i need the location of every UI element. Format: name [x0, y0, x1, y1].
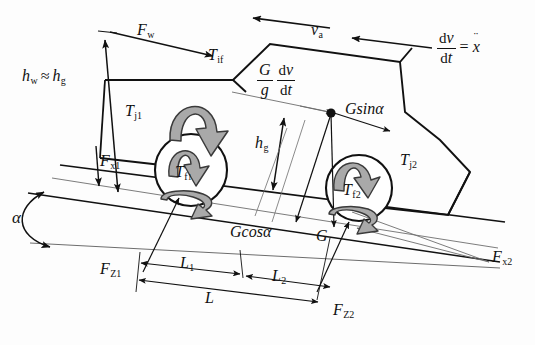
cg-height-dimension [273, 118, 284, 190]
g-sin-alpha-label: Gsinα [345, 101, 384, 117]
acceleration-label: dv dt =¨x [437, 30, 480, 67]
dimension-L2-label: L2 [272, 268, 286, 286]
center-of-gravity-point [326, 108, 335, 117]
front-traction-arrow [96, 146, 99, 186]
wind-height-tick [98, 31, 117, 33]
g-cos-alpha-label: Gcosα [230, 224, 271, 240]
dimension-L2 [246, 276, 330, 287]
front-normal-label: FZ1 [100, 261, 121, 279]
wind-force-label: Fw [137, 22, 154, 40]
rear-normal-label: FZ2 [333, 302, 354, 320]
front-normal-reaction-arrow [143, 198, 179, 272]
velocity-label: va [311, 22, 323, 40]
slope-angle-arc [22, 192, 50, 247]
wind-height-label: hw≈hg [22, 68, 66, 86]
dimension-L-label: L [205, 290, 214, 306]
figure-canvas: hw≈hg Fw Tif Tj1 Fx1 Tf1 va dv dt =¨x [0, 0, 535, 345]
g-cos-alpha-arrow [296, 114, 331, 222]
front-wheel-inertia-torque-label: Tj1 [125, 103, 142, 121]
acceleration-arrow [352, 38, 432, 48]
dimension-L1-label: L1 [180, 255, 194, 273]
inertia-torque-label: Tif [208, 47, 223, 65]
slope-angle-label: α [12, 209, 21, 226]
wind-force-arrow [110, 32, 213, 56]
dimension-extension-lines [136, 238, 330, 300]
front-rolling-torque-label: Tf1 [175, 164, 192, 182]
cg-height-label: hg [255, 135, 268, 153]
inertia-force-label: G g dv dt [257, 62, 295, 99]
dimension-L [139, 280, 318, 302]
weight-label: G [316, 228, 328, 244]
rear-traction-label: Fx2 [492, 249, 512, 267]
rear-wheel-inertia-torque-label: Tj2 [400, 152, 417, 170]
rear-rolling-torque-label: Tf2 [343, 182, 361, 200]
front-traction-label: Fx1 [100, 153, 120, 171]
